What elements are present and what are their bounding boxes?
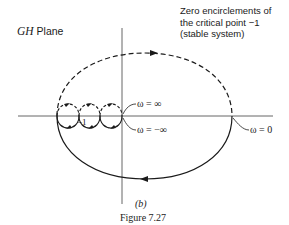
subfigure-label: (b) [135,198,147,209]
omega-infinity-label: ω = ∞ [137,98,161,109]
stability-annotation: Zero encirclements of the critical point… [180,5,289,40]
annotation-line-2: the critical point −1 [180,17,289,29]
plane-label-text: Plane [34,25,64,37]
leader-omega-inf [123,104,136,114]
critical-point-label: −1 [77,117,87,127]
omega-zero-label: ω = 0 [250,124,272,135]
annotation-line-1: Zero encirclements of [180,5,289,17]
leader-omega-zero [233,118,249,130]
leader-omega-ninf [123,118,136,130]
annotation-line-3: (stable system) [180,28,289,40]
arrow-right-icon [150,50,158,56]
omega-neg-infinity-label: ω = −∞ [137,124,167,135]
plane-label-gh: GH [17,25,34,37]
arrow-left-icon [140,176,148,182]
plane-label: GH Plane [17,25,63,37]
figure-caption: Figure 7.27 [120,212,166,223]
